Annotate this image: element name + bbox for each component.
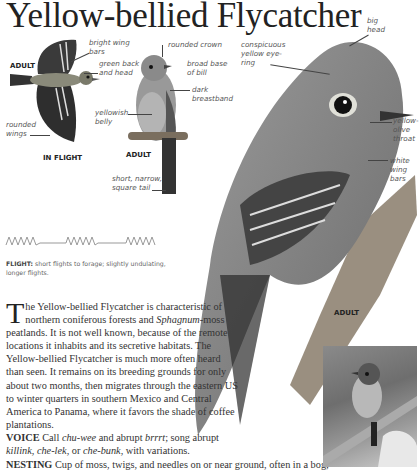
- description-text-2: -moss peatlands. It is not well known, b…: [6, 314, 238, 430]
- label-wing-bars: white wing bars: [390, 156, 416, 183]
- species-description: The Yellow-bellied Flycatcher is charact…: [6, 300, 238, 457]
- voice-song: che-bunk: [83, 445, 121, 456]
- voice-label: VOICE: [6, 432, 40, 443]
- photo-bird-icon: [323, 346, 417, 467]
- flight-pattern-diagram: [4, 233, 156, 249]
- leader-line: [368, 160, 388, 161]
- label-yellowish-belly: yellowish belly: [95, 108, 135, 126]
- leader-line: [162, 45, 163, 57]
- voice-call: chu-wee: [62, 432, 96, 443]
- voice-song: che-lek: [37, 445, 67, 456]
- leader-line: [84, 73, 98, 74]
- drop-cap: T: [6, 301, 24, 325]
- in-flight-caption: IN FLIGHT: [43, 154, 82, 162]
- voice-text: , with variations.: [121, 445, 190, 456]
- large-adult-caption: ADULT: [334, 309, 359, 317]
- label-throat: yellow-olive throat: [393, 116, 417, 143]
- nesting-label: NESTING: [6, 459, 52, 470]
- flight-label: FLIGHT:: [6, 260, 33, 267]
- leader-line: [128, 114, 152, 115]
- voice-song: killink: [6, 445, 32, 456]
- flight-description: FLIGHT: short flights to forage; slightl…: [6, 259, 166, 277]
- voice-text: Call: [40, 432, 62, 443]
- flight-path-icon: [4, 233, 156, 249]
- label-big-head: big head: [367, 16, 391, 34]
- voice-text: ; song abrupt: [165, 432, 219, 443]
- leader-line: [30, 135, 50, 136]
- description-italic: Sphagnum: [156, 314, 199, 325]
- flight-adult-tag: ADULT: [10, 62, 35, 70]
- voice-text: , or: [67, 445, 83, 456]
- voice-call: brrrt: [145, 432, 165, 443]
- leader-line: [152, 190, 166, 191]
- leader-line: [370, 122, 392, 123]
- nesting-text: Cup of moss, twigs, and needles on or ne…: [52, 459, 329, 470]
- bird-photo: [323, 346, 417, 467]
- voice-text: and abrupt: [96, 432, 145, 443]
- perched-adult-caption: ADULT: [126, 151, 151, 159]
- label-eye-ring: conspicuous yellow eye-ring: [241, 40, 287, 67]
